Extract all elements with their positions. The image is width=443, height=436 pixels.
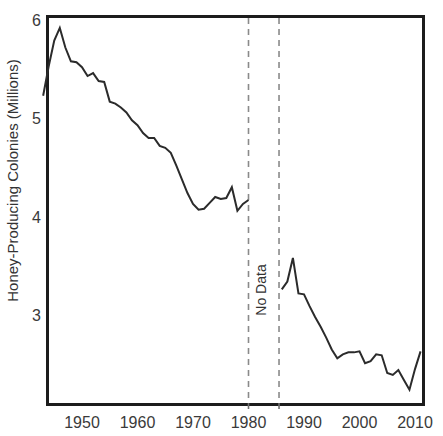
chart-background: [0, 0, 443, 436]
x-tick-label-2000: 2000: [342, 414, 378, 431]
x-tick-label-1980: 1980: [231, 414, 267, 431]
y-tick-label-5: 5: [32, 110, 41, 127]
y-tick-label-6: 6: [32, 12, 41, 29]
y-axis-title: Honey-Producing Colonies (Millions): [4, 59, 21, 302]
x-tick-label-1950: 1950: [64, 414, 100, 431]
y-tick-label-3: 3: [32, 307, 41, 324]
x-tick-label-1970: 1970: [175, 414, 211, 431]
chart-figure: 6543 1950196019701980199020002010 No Dat…: [0, 0, 443, 436]
x-tick-label-1990: 1990: [286, 414, 322, 431]
line-chart-canvas: 6543 1950196019701980199020002010 No Dat…: [0, 0, 443, 436]
x-tick-label-2010: 2010: [397, 414, 433, 431]
no-data-annotation-label: No Data: [253, 264, 269, 316]
y-tick-label-4: 4: [32, 209, 41, 226]
x-tick-label-1960: 1960: [120, 414, 156, 431]
